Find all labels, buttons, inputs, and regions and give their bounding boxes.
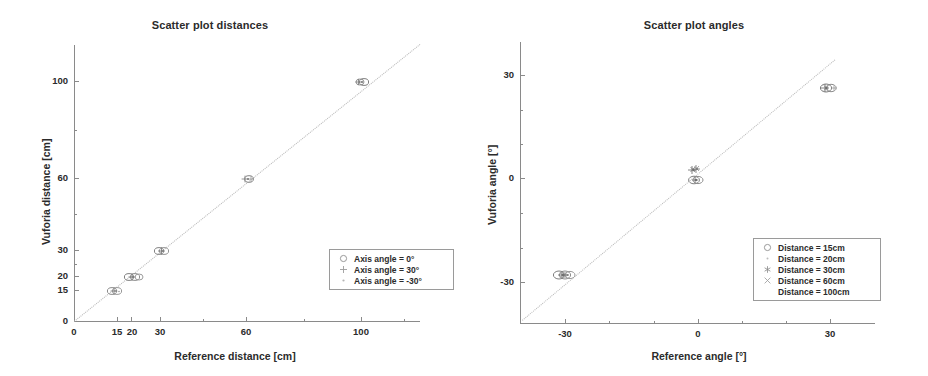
legend-item[interactable]: Axis angle = -30°	[334, 275, 448, 286]
data-cluster	[350, 76, 376, 88]
y-tick	[75, 81, 79, 82]
legend-label: Distance = 30cm	[776, 265, 845, 275]
legend-item[interactable]: Axis angle = 30°	[334, 264, 448, 275]
legend-item[interactable]: Distance = 15cm	[758, 242, 875, 253]
y-tick-minor	[521, 213, 523, 214]
asterisk-marker-icon	[758, 264, 776, 275]
y-tick-minor	[75, 264, 77, 265]
legend-item[interactable]: Distance = 100cm	[758, 286, 875, 297]
data-cluster	[812, 81, 848, 95]
legend-label: Axis angle = 30°	[352, 265, 419, 275]
x-tick-label: 30	[816, 328, 844, 339]
x-axis-label: Reference distance [cm]	[125, 350, 345, 362]
x-tick	[361, 317, 362, 321]
y-tick	[521, 282, 525, 283]
y-tick	[75, 178, 79, 179]
y-tick-label: 0	[34, 315, 68, 326]
data-cluster	[236, 173, 262, 185]
y-tick-label: -30	[482, 276, 514, 287]
legend-angles[interactable]: Distance = 15cm Distance = 20cm Distance…	[753, 238, 881, 301]
data-cluster	[547, 268, 583, 282]
data-cluster	[120, 271, 148, 283]
x-tick	[131, 317, 132, 321]
y-tick	[75, 321, 79, 322]
figure-canvas: Scatter plot distances Vuforia distance …	[0, 0, 928, 376]
x-tick-minor	[404, 319, 405, 321]
y-axis-line	[520, 42, 521, 323]
legend-label: Distance = 100cm	[776, 287, 850, 297]
x-tick-label: 0	[60, 326, 88, 337]
y-tick	[521, 75, 525, 76]
data-cluster	[681, 161, 711, 191]
x-tick-label: 0	[684, 328, 712, 339]
legend-label: Distance = 15cm	[776, 243, 845, 253]
circle-marker-icon	[758, 242, 776, 253]
y-tick	[75, 290, 79, 291]
x-axis-line	[520, 323, 875, 324]
y-tick	[75, 276, 79, 277]
legend-distances[interactable]: Axis angle = 0° Axis angle = 30° Axis an…	[329, 249, 454, 290]
legend-label: Axis angle = -30°	[352, 276, 422, 286]
chart-panel-angles: Scatter plot angles Vuforia angle [°] Re…	[464, 0, 928, 376]
dot-marker-icon	[758, 253, 776, 264]
x-tick-label: 30	[147, 326, 173, 337]
dot-marker-icon	[334, 275, 352, 286]
y-axis-label: Vuforia angle [°]	[486, 145, 498, 225]
legend-item[interactable]: Distance = 30cm	[758, 264, 875, 275]
y-tick-label: 20	[34, 270, 68, 281]
x-tick	[160, 317, 161, 321]
x-tick-minor	[304, 319, 305, 321]
x-tick	[117, 317, 118, 321]
legend-item[interactable]: Distance = 60cm	[758, 275, 875, 286]
legend-label: Distance = 20cm	[776, 254, 845, 264]
legend-item[interactable]: Axis angle = 0°	[334, 253, 448, 264]
x-tick-label: -30	[550, 328, 580, 339]
data-cluster	[150, 245, 176, 257]
blank-marker-icon	[758, 286, 776, 297]
x-tick-label: 100	[347, 326, 375, 337]
x-axis-label: Reference angle [°]	[594, 350, 804, 362]
y-axis-label: Vuforia distance [cm]	[40, 139, 52, 245]
x-tick-minor	[203, 319, 204, 321]
legend-label: Axis angle = 0°	[352, 254, 414, 264]
x-tick-minor	[742, 321, 743, 323]
y-tick-label: 60	[34, 172, 68, 183]
y-tick-minor	[521, 248, 523, 249]
x-tick-minor	[786, 321, 787, 323]
data-cluster	[104, 285, 130, 297]
x-tick-minor	[654, 321, 655, 323]
x-tick-label: 60	[233, 326, 259, 337]
x-tick-minor	[609, 321, 610, 323]
y-tick-label: 100	[34, 75, 68, 86]
page-title: Scatter plot angles	[579, 19, 809, 31]
plus-marker-icon	[334, 264, 352, 275]
legend-label: Distance = 60cm	[776, 276, 845, 286]
y-tick-minor	[521, 144, 523, 145]
y-tick-label: 0	[482, 172, 514, 183]
y-tick-label: 15	[34, 284, 68, 295]
circle-marker-icon	[334, 253, 352, 264]
x-tick	[246, 317, 247, 321]
y-tick-minor	[521, 110, 523, 111]
x-tick	[830, 319, 831, 323]
legend-item[interactable]: Distance = 20cm	[758, 253, 875, 264]
y-tick-minor	[75, 214, 77, 215]
y-axis-line	[74, 45, 75, 321]
y-tick	[521, 178, 525, 179]
x-tick	[698, 319, 699, 323]
cross-marker-icon	[758, 275, 776, 286]
x-tick-label: 20	[119, 326, 145, 337]
x-tick	[565, 319, 566, 323]
y-tick	[75, 250, 79, 251]
chart-panel-distances: Scatter plot distances Vuforia distance …	[0, 0, 464, 376]
y-tick-label: 30	[34, 244, 68, 255]
page-title: Scatter plot distances	[85, 19, 335, 31]
x-axis-line	[74, 321, 420, 322]
y-tick-label: 30	[482, 69, 514, 80]
y-tick-minor	[75, 130, 77, 131]
